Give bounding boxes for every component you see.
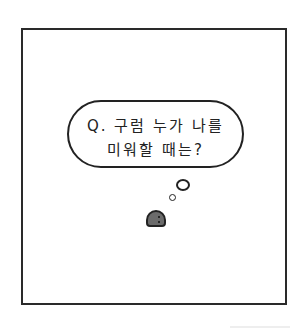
character-eye bbox=[158, 221, 160, 223]
bubble-text-line-2: 미워할 때는? bbox=[69, 138, 242, 159]
character-blob bbox=[146, 210, 166, 227]
character-eye bbox=[158, 216, 160, 218]
thought-dot-large bbox=[176, 179, 190, 191]
thought-bubble: Q. 구럼 누가 나를 미워할 때는? bbox=[67, 100, 244, 168]
bubble-text-line-1: Q. 구럼 누가 나를 bbox=[69, 114, 242, 135]
decorative-line bbox=[230, 326, 290, 328]
thought-dot-small bbox=[169, 194, 176, 201]
